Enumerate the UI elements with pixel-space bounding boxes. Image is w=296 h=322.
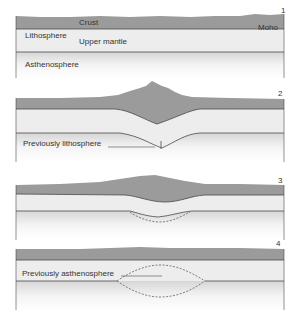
panel-number: 2 bbox=[278, 89, 283, 98]
previously-lithosphere-label: Previously lithosphere bbox=[23, 139, 102, 148]
crust-layer bbox=[16, 247, 284, 260]
crust-layer bbox=[16, 14, 284, 29]
asthenosphere-label: Asthenosphere bbox=[25, 60, 79, 69]
panel-4: 4 Previously asthenosphere bbox=[16, 239, 284, 311]
lithosphere-evolution-diagram: 1 Crust Moho Lithosphere Upper mantle As… bbox=[0, 0, 296, 322]
panel-number: 1 bbox=[281, 6, 286, 15]
panel-1: 1 Crust Moho Lithosphere Upper mantle As… bbox=[16, 6, 286, 78]
previously-asthenosphere-label: Previously asthenosphere bbox=[22, 269, 115, 278]
upper-mantle-label: Upper mantle bbox=[79, 37, 128, 46]
panel-3: 3 bbox=[16, 175, 284, 240]
crust-label: Crust bbox=[79, 18, 99, 27]
lithosphere-label: Lithosphere bbox=[25, 31, 67, 40]
panel-number: 3 bbox=[278, 176, 283, 185]
moho-label: Moho bbox=[258, 23, 279, 32]
panel-2: 2 Previously lithosphere bbox=[16, 81, 284, 162]
panel-number: 4 bbox=[276, 239, 281, 248]
